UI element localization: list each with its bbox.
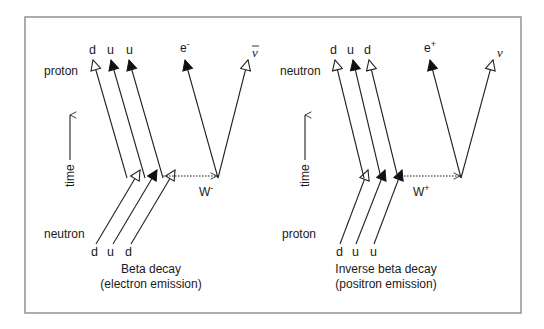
left-top-quark-3: u (126, 43, 133, 57)
left-bottom-quark-2: u (107, 245, 114, 259)
left-time-label: time (63, 164, 77, 187)
left-bottom-quark-1: d (91, 245, 98, 259)
right-time-label: time (298, 164, 312, 187)
left-antineutrino-label: ν (252, 45, 258, 60)
left-bottom-quark-3: d (125, 245, 132, 259)
left-caption-line-2: (electron emission) (100, 277, 201, 291)
feynman-diagram-canvas: d u u proton W- e- ν time neutron d u d … (0, 0, 544, 329)
right-top-quark-1: d (330, 43, 337, 57)
right-bottom-quark-3: u (370, 245, 377, 259)
right-bottom-particle-label: proton (282, 227, 316, 241)
diagram-frame (25, 17, 521, 313)
right-top-quark-3: d (364, 43, 371, 57)
right-caption-line-1: Inverse beta decay (335, 262, 436, 276)
right-top-quark-2: u (347, 43, 354, 57)
right-bottom-quark-2: u (352, 245, 359, 259)
left-top-quark-2: u (107, 43, 114, 57)
left-caption-line-1: Beta decay (121, 262, 181, 276)
left-top-quark-1: d (89, 43, 96, 57)
left-bottom-particle-label: neutron (44, 227, 85, 241)
right-top-particle-label: neutron (280, 64, 321, 78)
right-neutrino-label: ν (497, 45, 503, 60)
left-top-particle-label: proton (44, 64, 78, 78)
right-bottom-quark-1: d (336, 245, 343, 259)
right-caption-line-2: (positron emission) (335, 277, 436, 291)
